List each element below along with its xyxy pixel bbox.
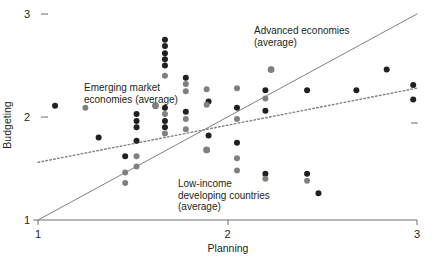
average-marker-advanced-economies-average [268, 66, 275, 73]
data-point [162, 118, 168, 124]
data-point [262, 171, 268, 177]
data-point [134, 138, 140, 144]
data-point [234, 105, 240, 111]
data-point [304, 87, 310, 93]
data-point [162, 50, 168, 56]
annotation-emerging-market-economies: Emerging market economies (average) [84, 82, 178, 105]
data-point [134, 111, 140, 117]
data-point [134, 124, 140, 130]
data-point [162, 37, 168, 43]
data-point [206, 133, 212, 139]
data-point [122, 170, 128, 176]
data-point [162, 111, 168, 117]
data-point [183, 75, 189, 81]
data-point [183, 126, 189, 132]
data-point [234, 116, 240, 122]
scatter-chart: 123123 Planning Budgeting Emerging marke… [0, 0, 435, 266]
data-point [162, 124, 168, 130]
data-point [384, 67, 390, 73]
data-point [183, 116, 189, 122]
y-tick-label-1: 1 [24, 214, 30, 226]
data-points [52, 37, 416, 196]
data-point [134, 153, 140, 159]
y-tick-label-3: 3 [24, 8, 30, 20]
data-point [162, 63, 168, 69]
data-point [234, 85, 240, 91]
data-point [353, 87, 359, 93]
data-point [410, 96, 416, 102]
y-axis-title: Budgeting [1, 101, 13, 148]
x-tick-label-1: 1 [35, 228, 41, 240]
data-point [162, 73, 168, 79]
data-point [204, 102, 210, 108]
annotation-advanced-economies: Advanced economies (average) [254, 25, 350, 48]
data-point [262, 108, 268, 114]
x-axis-title: Planning [208, 242, 249, 254]
annotation-low-income-developing-countries: Low-income developing countries (average… [178, 178, 270, 213]
data-point [122, 153, 128, 159]
data-point [304, 178, 310, 184]
y-tick-label-2: 2 [24, 111, 30, 123]
data-point [52, 103, 58, 109]
data-point [134, 163, 140, 169]
data-point [162, 130, 168, 136]
plot-area: 123123 Planning Budgeting [0, 0, 435, 266]
data-point [204, 86, 210, 92]
data-point [262, 87, 268, 93]
data-point [315, 190, 321, 196]
data-point [234, 168, 240, 174]
data-point [234, 155, 240, 161]
data-point [122, 180, 128, 186]
average-marker-low-income-developing-countries-average [203, 147, 210, 154]
data-point [162, 105, 168, 111]
data-point [134, 118, 140, 124]
x-tick-label-2: 2 [224, 228, 230, 240]
data-point [183, 81, 189, 87]
data-point [162, 56, 168, 62]
data-point [262, 95, 268, 101]
x-tick-label-3: 3 [414, 228, 420, 240]
data-point [410, 82, 416, 88]
annotation-markers [152, 66, 274, 153]
data-point [96, 135, 102, 141]
data-point [82, 105, 88, 111]
data-point [183, 88, 189, 94]
data-point [162, 43, 168, 49]
data-point [183, 109, 189, 115]
data-point [304, 171, 310, 177]
data-point [234, 140, 240, 146]
